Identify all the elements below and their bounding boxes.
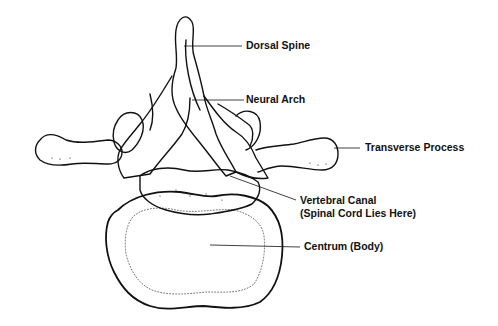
- leader-vertebral-canal: [230, 176, 296, 200]
- label-vertebral-canal: Vertebral Canal: [300, 194, 376, 207]
- label-vertebral-canal-note: (Spinal Cord Lies Here): [300, 207, 416, 220]
- label-dorsal-spine: Dorsal Spine: [246, 39, 310, 52]
- label-neural-arch: Neural Arch: [246, 93, 305, 106]
- transverse-process-left: [36, 135, 123, 165]
- vertebra-diagram: Dorsal Spine Neural Arch Transverse Proc…: [0, 0, 498, 326]
- leader-centrum: [210, 245, 300, 247]
- neural-arch-left: [118, 76, 190, 178]
- label-centrum: Centrum (Body): [304, 240, 383, 253]
- centrum-shape: [106, 192, 282, 309]
- label-transverse-process: Transverse Process: [365, 141, 464, 154]
- transverse-process-right: [256, 138, 338, 172]
